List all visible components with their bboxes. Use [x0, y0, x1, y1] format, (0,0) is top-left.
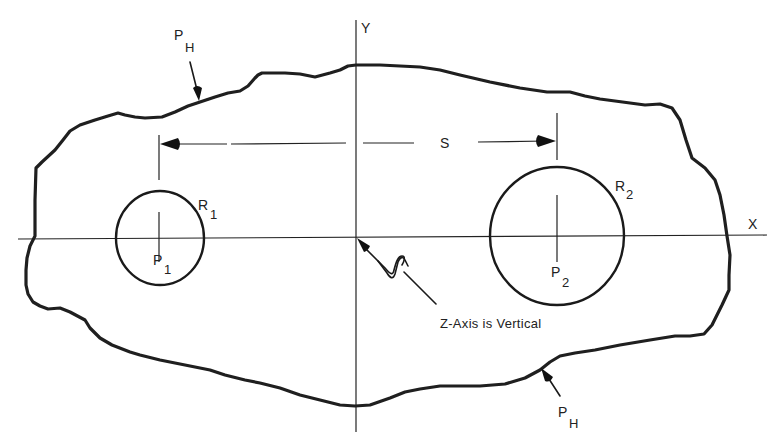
- hole-1-point-label: P: [153, 252, 162, 268]
- dimension-arrowhead-left-icon: [160, 138, 180, 150]
- y-axis-label: Y: [361, 20, 371, 36]
- boundary-pointer-top: [190, 62, 197, 90]
- boundary-label-bottom: P: [558, 404, 567, 420]
- x-axis-label: X: [748, 216, 758, 232]
- dimension-line-right-segment: [478, 141, 546, 142]
- z-axis-note: Z-Axis is Vertical: [440, 316, 541, 331]
- x-axis: [18, 235, 767, 239]
- boundary-label-top-subscript: H: [185, 40, 194, 55]
- hole-1-point-subscript: 1: [164, 262, 171, 277]
- boundary-arrowhead-bottom-icon: [541, 368, 553, 382]
- two-hole-region-diagram: S P H P H Y X R 1 P 1 R 2 P 2 Z-Axis is …: [0, 0, 783, 444]
- boundary-arrowhead-top-icon: [193, 86, 202, 101]
- hole-2-radius-subscript: 2: [626, 187, 633, 202]
- boundary-label-bottom-subscript: H: [569, 416, 578, 431]
- hole-2-point-label: P: [551, 264, 560, 280]
- dimension-line-left-segment-2: [231, 143, 346, 144]
- dimension-arrowhead-right-icon: [536, 135, 556, 147]
- boundary-pointer-bottom: [549, 379, 560, 396]
- hole-2-point-subscript: 2: [562, 275, 569, 290]
- z-axis-arrowhead-icon: [357, 238, 370, 252]
- hole-1-radius-subscript: 1: [210, 207, 217, 222]
- spacing-label: S: [440, 135, 449, 151]
- boundary-label-top: P: [174, 27, 183, 43]
- hole-2-radius-label: R: [615, 178, 625, 194]
- hole-1-radius-label: R: [198, 197, 208, 213]
